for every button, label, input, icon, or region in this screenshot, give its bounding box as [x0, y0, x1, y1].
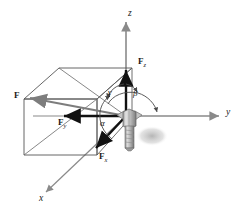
angle-alpha-label: α [100, 119, 105, 128]
force-y-label: Fy [58, 118, 66, 129]
box-wireframe [24, 68, 132, 155]
force-y-subscript: y [64, 122, 67, 129]
angle-gamma-label: γ [108, 88, 112, 97]
z-axis-label: z [128, 9, 132, 19]
box-top-face [24, 68, 132, 99]
force-vector-diagram: z y x F Fz Fy Fx α β γ [0, 0, 241, 218]
force-z-label: Fz [138, 57, 146, 68]
angle-beta-label: β [133, 89, 137, 98]
force-resultant-symbol: F [14, 90, 20, 100]
diagram-canvas [0, 0, 241, 218]
force-resultant-label: F [14, 91, 20, 100]
force-x-subscript: x [105, 156, 108, 163]
bolt-tip [125, 148, 134, 151]
y-axis-label: y [226, 108, 230, 118]
force-x-label: Fx [99, 152, 107, 163]
bolt-at-origin [117, 109, 142, 151]
bolt-shadow [136, 126, 168, 146]
bolt-shank [125, 126, 134, 148]
x-axis-label: x [39, 194, 43, 204]
force-z-subscript: z [144, 61, 147, 68]
